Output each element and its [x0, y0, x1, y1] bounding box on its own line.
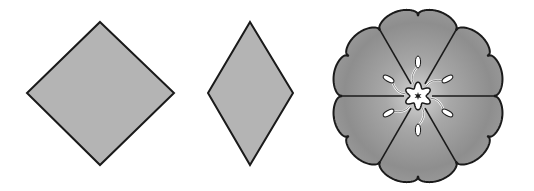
flower-shape [334, 10, 503, 182]
figure-canvas [0, 0, 534, 191]
square-diamond-shape [27, 22, 174, 165]
stamen-anther [415, 56, 420, 68]
stamen-anther [415, 124, 420, 136]
rhombus-shape [208, 22, 293, 165]
